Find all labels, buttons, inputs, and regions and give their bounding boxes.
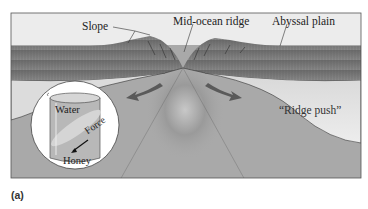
panel-label: (a) bbox=[11, 190, 24, 201]
abyssal-plain-label: Abyssal plain bbox=[272, 16, 335, 28]
honey-label: Honey bbox=[63, 156, 91, 167]
ridge-push-label: “Ridge push” bbox=[279, 105, 341, 117]
slope-label: Slope bbox=[82, 21, 108, 33]
mid-ocean-ridge-label: Mid-ocean ridge bbox=[173, 16, 249, 28]
ridge-push-diagram: Slope Mid-ocean ridge Abyssal plain “Rid… bbox=[0, 0, 368, 209]
water-label: Water bbox=[55, 105, 80, 116]
